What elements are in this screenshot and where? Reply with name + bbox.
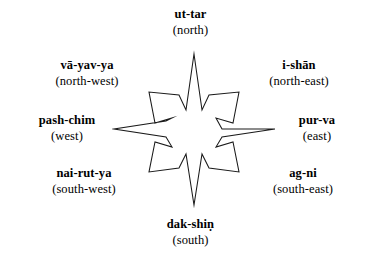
compass-star-graphic [112, 50, 278, 208]
direction-term-west: pash-chim [8, 112, 126, 128]
direction-term-east: pur-va [262, 112, 372, 128]
compass-star-path [114, 54, 275, 205]
direction-gloss-north: (north) [0, 22, 381, 38]
direction-label-west: pash-chim (west) [8, 112, 126, 144]
direction-label-south: dak-shiṇ (south) [0, 216, 381, 248]
direction-gloss-west: (west) [8, 128, 126, 144]
direction-label-north: ut-tar (north) [0, 6, 381, 38]
direction-term-south: dak-shiṇ [0, 216, 381, 232]
direction-label-east: pur-va (east) [262, 112, 372, 144]
direction-gloss-south: (south) [0, 232, 381, 248]
compass-directions-figure: ut-tar (north) vā-yav-ya (north-west) i-… [0, 0, 381, 257]
direction-term-north: ut-tar [0, 6, 381, 22]
direction-gloss-east: (east) [262, 128, 372, 144]
